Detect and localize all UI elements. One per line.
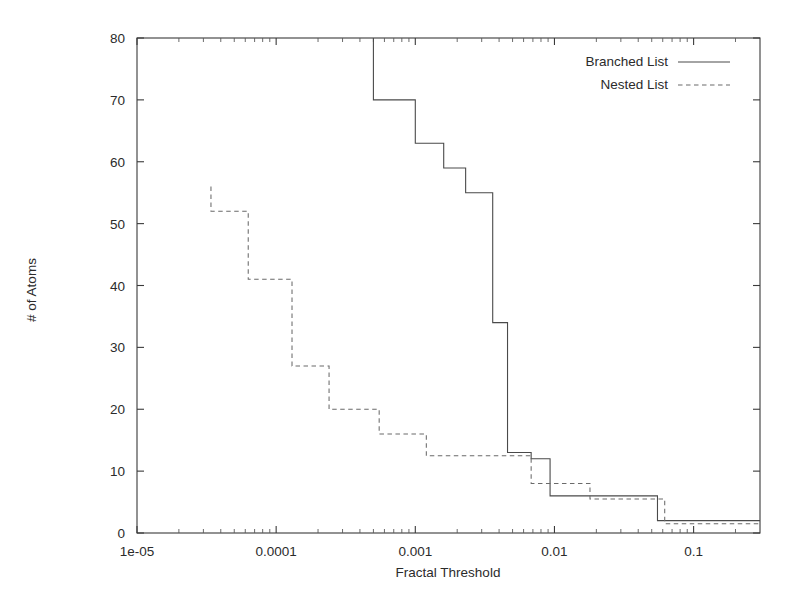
legend-label-nested-list: Nested List <box>600 77 668 92</box>
y-axis-tick-labels: 01020304050607080 <box>110 31 125 541</box>
y-tick-label: 50 <box>110 217 125 232</box>
chart-figure: 1e-050.00010.0010.010.1 0102030405060708… <box>0 0 799 602</box>
legend-label-branched-list: Branched List <box>585 54 668 69</box>
y-axis-title: # of Atoms <box>24 258 39 322</box>
series-line-nested-list <box>211 187 760 524</box>
x-axis-tick-labels: 1e-050.00010.0010.010.1 <box>120 544 703 559</box>
y-tick-label: 80 <box>110 31 125 46</box>
chart-canvas: 1e-050.00010.0010.010.1 0102030405060708… <box>0 0 799 602</box>
y-tick-label: 20 <box>110 402 125 417</box>
x-axis-ticks <box>137 38 735 533</box>
y-tick-label: 10 <box>110 464 125 479</box>
y-tick-label: 0 <box>117 526 125 541</box>
y-tick-label: 30 <box>110 340 125 355</box>
chart-legend: Branched ListNested List <box>585 54 730 92</box>
data-series-group <box>211 38 760 524</box>
y-tick-label: 70 <box>110 93 125 108</box>
x-tick-label: 1e-05 <box>120 544 155 559</box>
x-tick-label: 0.1 <box>684 544 703 559</box>
x-tick-label: 0.001 <box>398 544 432 559</box>
x-axis-title: Fractal Threshold <box>396 565 501 580</box>
series-line-branched-list <box>373 38 760 521</box>
x-tick-label: 0.01 <box>541 544 567 559</box>
x-tick-label: 0.0001 <box>256 544 297 559</box>
y-tick-label: 60 <box>110 155 125 170</box>
y-tick-label: 40 <box>110 279 125 294</box>
y-axis-ticks <box>137 38 760 533</box>
plot-frame <box>137 38 760 533</box>
